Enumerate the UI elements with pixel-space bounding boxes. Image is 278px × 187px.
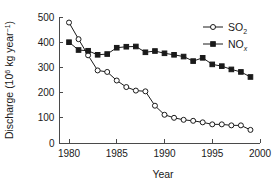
- data-point-NOx: [220, 64, 225, 69]
- x-tick-label: 2000: [249, 148, 272, 159]
- data-series: [67, 20, 253, 132]
- data-point-NOx: [239, 70, 244, 75]
- y-tick-label: 100: [38, 112, 55, 123]
- data-point-SO2: [219, 122, 224, 127]
- legend-item-SO2: SO2: [203, 21, 247, 35]
- discharge-line-chart: 198019851990199520000100200300400500 Dis…: [0, 0, 278, 187]
- series-line-SO2: [69, 23, 250, 130]
- data-point-NOx: [67, 40, 72, 45]
- data-point-SO2: [95, 68, 100, 73]
- x-tick-label: 1985: [106, 148, 129, 159]
- data-point-SO2: [152, 103, 157, 108]
- data-point-SO2: [238, 123, 243, 128]
- data-point-NOx: [210, 62, 215, 67]
- data-point-NOx: [162, 51, 167, 56]
- data-point-NOx: [124, 44, 129, 49]
- x-axis-title: Year: [152, 168, 174, 180]
- data-point-NOx: [95, 53, 100, 58]
- data-point-SO2: [124, 85, 129, 90]
- data-point-SO2: [172, 115, 177, 120]
- data-point-SO2: [143, 89, 148, 94]
- data-point-SO2: [200, 120, 205, 125]
- data-point-SO2: [229, 123, 234, 128]
- y-tick-label: 0: [49, 138, 55, 149]
- data-point-NOx: [248, 75, 253, 80]
- series-SO2: [67, 20, 253, 132]
- y-tick-label: 300: [38, 62, 55, 73]
- legend-label: SO2: [228, 21, 247, 35]
- legend-marker-filled-square-icon: [211, 42, 216, 47]
- x-tick-label: 1995: [201, 148, 224, 159]
- x-tick-label: 1990: [153, 148, 176, 159]
- series-NOx: [67, 40, 253, 79]
- data-point-NOx: [191, 59, 196, 64]
- x-tick-label: 1980: [58, 148, 81, 159]
- legend-item-NOx: NOx: [203, 38, 248, 52]
- data-point-SO2: [248, 127, 253, 132]
- data-point-NOx: [229, 67, 234, 72]
- y-tick-label: 200: [38, 87, 55, 98]
- data-point-NOx: [200, 56, 205, 61]
- figure-container: 198019851990199520000100200300400500 Dis…: [0, 0, 278, 187]
- data-point-SO2: [76, 37, 81, 42]
- data-point-SO2: [210, 122, 215, 127]
- legend: SO2NOx: [203, 21, 248, 52]
- legend-label: NOx: [228, 38, 248, 52]
- data-point-NOx: [134, 44, 139, 49]
- data-point-SO2: [181, 117, 186, 122]
- legend-marker-open-circle-icon: [211, 25, 216, 30]
- data-point-NOx: [76, 48, 81, 53]
- y-axis-title: Discharge (106 kg year−1): [3, 21, 15, 139]
- y-tick-label: 400: [38, 37, 55, 48]
- data-point-SO2: [191, 118, 196, 123]
- data-point-SO2: [105, 69, 110, 74]
- tick-labels: 198019851990199520000100200300400500: [38, 12, 272, 160]
- data-point-NOx: [114, 45, 119, 50]
- y-tick-label: 500: [38, 12, 55, 23]
- data-point-SO2: [114, 78, 119, 83]
- data-point-NOx: [143, 50, 148, 55]
- data-point-SO2: [67, 20, 72, 25]
- data-point-SO2: [162, 112, 167, 117]
- data-point-NOx: [153, 49, 158, 54]
- data-point-SO2: [133, 88, 138, 93]
- data-point-NOx: [86, 48, 91, 53]
- data-point-NOx: [181, 54, 186, 59]
- data-point-NOx: [172, 53, 177, 58]
- data-point-NOx: [105, 52, 110, 57]
